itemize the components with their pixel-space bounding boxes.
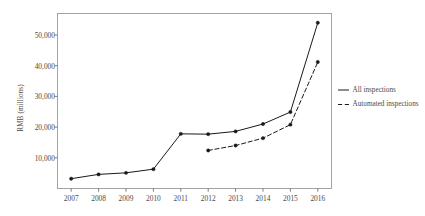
plot-area	[0, 0, 425, 216]
legend-label-1: All inspections	[353, 86, 396, 94]
chart-figure: RMB (millions) 10,00020,00030,00040,0005…	[0, 0, 425, 216]
data-point	[261, 136, 264, 139]
data-point	[289, 110, 292, 113]
legend-label-2: Automated inspections	[353, 100, 419, 108]
data-point	[234, 130, 237, 133]
data-point	[97, 173, 100, 176]
data-point	[316, 60, 319, 63]
data-point	[207, 132, 210, 135]
data-point	[316, 21, 319, 24]
data-point	[207, 149, 210, 152]
data-point	[289, 123, 292, 126]
data-point	[179, 132, 182, 135]
data-point	[124, 171, 127, 174]
data-point	[152, 167, 155, 170]
series-line-1	[71, 23, 318, 179]
plot-frame	[58, 14, 332, 189]
data-point	[70, 177, 73, 180]
data-point	[234, 144, 237, 147]
data-point	[261, 122, 264, 125]
